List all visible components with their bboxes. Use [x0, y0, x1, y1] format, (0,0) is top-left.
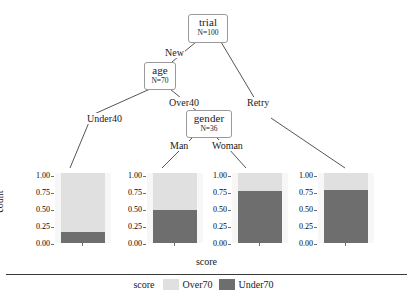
ytick-0-00: 0.00 [36, 240, 50, 248]
tree-node-gender-label: gender [191, 113, 227, 124]
ytick-0-50: 0.50 [128, 206, 142, 214]
ytick-1-00: 1.00 [36, 172, 50, 180]
panel-2-y-axis: 1.00 0.75 0.50 0.25 0.00 [114, 168, 146, 248]
ytick-mark-0-50 [314, 210, 317, 211]
bar-under70-2 [153, 210, 197, 243]
ytick-mark-0-50 [51, 210, 54, 211]
ytick-mark-1-00 [228, 176, 231, 177]
bar-over70-3 [238, 173, 282, 191]
tree-node-age-count: N=70 [149, 77, 171, 85]
panel-3-y-axis: 1.00 0.75 0.50 0.25 0.00 [199, 168, 231, 248]
tree-node-gender[interactable]: gender N=36 [186, 110, 232, 138]
bar-over70-1 [61, 173, 105, 232]
bar-under70-4 [324, 190, 368, 243]
ytick-mark-0-50 [228, 210, 231, 211]
panel-1-y-axis: 1.00 0.75 0.50 0.25 0.00 [22, 168, 54, 248]
ytick-mark-0-25 [314, 227, 317, 228]
ytick-mark-0-00 [314, 244, 317, 245]
legend-label-under70: Under70 [239, 279, 274, 290]
edge-man-panel [162, 148, 182, 168]
legend-divider [6, 274, 407, 275]
tree-node-trial[interactable]: trial N=100 [188, 14, 228, 43]
ytick-mark-0-25 [143, 227, 146, 228]
ytick-1-00: 1.00 [299, 172, 313, 180]
bar-over70-4 [324, 173, 368, 190]
edge-retry-panel [271, 118, 345, 168]
panel-3-x-tick [259, 243, 260, 246]
ytick-0-75: 0.75 [299, 189, 313, 197]
tree-node-age-label: age [149, 65, 171, 76]
legend-swatch-under70 [219, 279, 235, 290]
panel-retry: 1.00 0.75 0.50 0.25 0.00 [285, 168, 381, 254]
tree-node-gender-count: N=36 [191, 125, 227, 133]
x-axis-title: score [0, 256, 413, 267]
ytick-0-75: 0.75 [128, 189, 142, 197]
edge-woman-panel [228, 148, 246, 168]
ytick-mark-0-00 [143, 244, 146, 245]
ytick-0-75: 0.75 [36, 189, 50, 197]
panel-1-plot [55, 173, 111, 243]
ytick-0-25: 0.25 [36, 223, 50, 231]
panel-under40: 1.00 0.75 0.50 0.25 0.00 [22, 168, 118, 254]
edge-trial-retry [221, 42, 258, 104]
ytick-mark-0-50 [143, 210, 146, 211]
ytick-0-25: 0.25 [213, 223, 227, 231]
panel-1-x-tick [82, 243, 83, 246]
tree-node-trial-label: trial [193, 17, 223, 28]
ytick-mark-0-25 [228, 227, 231, 228]
tree-node-age[interactable]: age N=70 [144, 62, 176, 90]
edge-age-under40 [92, 89, 150, 115]
ytick-0-75: 0.75 [213, 189, 227, 197]
ytick-0-50: 0.50 [299, 206, 313, 214]
panel-4-y-axis: 1.00 0.75 0.50 0.25 0.00 [285, 168, 317, 248]
ytick-0-25: 0.25 [128, 223, 142, 231]
bar-over70-2 [153, 173, 197, 210]
edge-label-retry: Retry [246, 97, 270, 108]
panel-woman: 1.00 0.75 0.50 0.25 0.00 [199, 168, 295, 254]
ytick-0-50: 0.50 [36, 206, 50, 214]
edge-label-woman: Woman [211, 140, 244, 151]
panel-man: 1.00 0.75 0.50 0.25 0.00 [114, 168, 210, 254]
ytick-1-00: 1.00 [128, 172, 142, 180]
edge-label-over40: Over40 [168, 97, 200, 108]
ytick-0-00: 0.00 [299, 240, 313, 248]
panel-4-x-tick [345, 243, 346, 246]
legend: score Over70 Under70 [0, 279, 413, 290]
edge-label-man: Man [169, 140, 189, 151]
ytick-mark-0-00 [228, 244, 231, 245]
panel-3-plot [232, 173, 288, 243]
ytick-1-00: 1.00 [213, 172, 227, 180]
legend-title: score [133, 279, 154, 290]
panel-2-plot [147, 173, 203, 243]
panel-4-plot [318, 173, 374, 243]
ytick-mark-1-00 [51, 176, 54, 177]
ytick-mark-0-75 [228, 193, 231, 194]
legend-label-over70: Over70 [183, 279, 213, 290]
ytick-mark-0-75 [143, 193, 146, 194]
ytick-mark-0-00 [51, 244, 54, 245]
legend-entry-under70[interactable]: Under70 [219, 279, 280, 290]
ytick-0-00: 0.00 [128, 240, 142, 248]
legend-swatch-over70 [163, 279, 179, 290]
ytick-mark-1-00 [143, 176, 146, 177]
tree-node-trial-count: N=100 [193, 29, 223, 37]
panel-row: 1.00 0.75 0.50 0.25 0.00 1.00 0.75 [0, 168, 413, 254]
ytick-mark-1-00 [314, 176, 317, 177]
ytick-mark-0-75 [314, 193, 317, 194]
ytick-mark-0-25 [51, 227, 54, 228]
panel-2-x-tick [174, 243, 175, 246]
bar-under70-1 [61, 232, 105, 243]
ytick-0-50: 0.50 [213, 206, 227, 214]
bar-under70-3 [238, 191, 282, 244]
ytick-0-00: 0.00 [213, 240, 227, 248]
edge-label-under40: Under40 [86, 113, 123, 124]
edge-label-new: New [164, 47, 185, 58]
legend-entry-over70[interactable]: Over70 [163, 279, 219, 290]
ytick-0-25: 0.25 [299, 223, 313, 231]
ytick-mark-0-75 [51, 193, 54, 194]
figure-root: trial N=100 age N=70 gender N=36 New Ret… [0, 0, 413, 303]
